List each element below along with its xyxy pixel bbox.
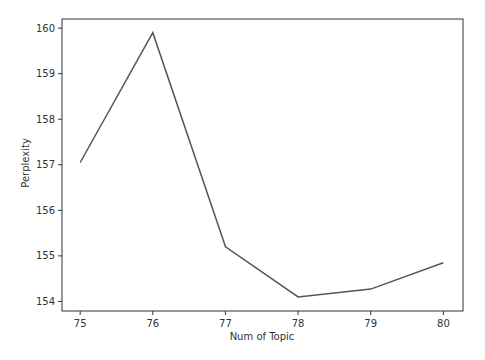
x-tick-label: 79 (364, 318, 377, 329)
x-tick-label: 77 (219, 318, 232, 329)
y-tick-label: 154 (36, 296, 55, 307)
y-tick-label: 159 (36, 68, 55, 79)
y-axis-label: Perplexity (20, 138, 31, 188)
x-axis-ticks: 757677787980 (74, 311, 450, 329)
x-axis-label: Num of Topic (230, 331, 295, 342)
plot-area: 154155156157158159160 757677787980 (36, 19, 463, 329)
line-chart: 154155156157158159160 757677787980 Num o… (0, 0, 485, 360)
y-tick-label: 155 (36, 250, 55, 261)
x-tick-label: 75 (74, 318, 87, 329)
y-tick-label: 158 (36, 114, 55, 125)
y-tick-label: 160 (36, 23, 55, 34)
x-tick-label: 76 (146, 318, 159, 329)
axes-frame (62, 19, 463, 311)
y-tick-label: 156 (36, 205, 55, 216)
y-axis-ticks: 154155156157158159160 (36, 23, 62, 307)
x-tick-label: 80 (437, 318, 450, 329)
x-tick-label: 78 (292, 318, 305, 329)
y-tick-label: 157 (36, 159, 55, 170)
